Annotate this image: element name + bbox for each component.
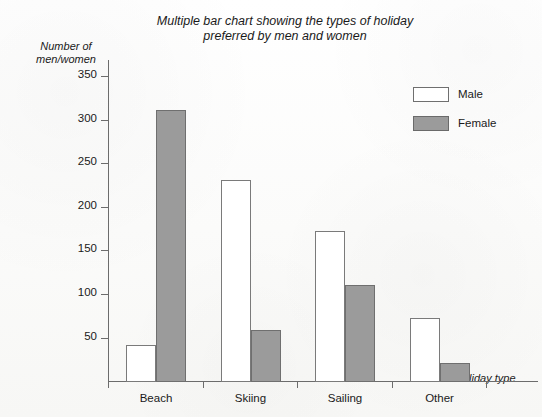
y-axis-tick: 100 (101, 294, 108, 295)
y-axis-tick: 50 (101, 338, 108, 339)
legend-item-female: Female (413, 115, 496, 131)
y-axis-tick: 350 (101, 76, 108, 77)
bar-other-male (410, 318, 440, 382)
chart-title-line-1: Multiple bar chart showing the types of … (120, 14, 450, 29)
bar-skiing-female (251, 330, 281, 382)
bar-beach-male (126, 345, 156, 382)
x-axis-category-label-beach: Beach (140, 392, 173, 404)
y-axis-tick: 300 (101, 120, 108, 121)
legend-swatch-female (413, 116, 449, 131)
chart-screenshot: Multiple bar chart showing the types of … (0, 0, 542, 417)
legend-swatch-male (413, 87, 449, 102)
y-axis-line (108, 60, 109, 382)
y-axis-tick-label: 150 (78, 242, 97, 254)
legend: MaleFemale (413, 86, 496, 144)
legend-label-male: Male (458, 88, 483, 100)
y-axis-title-line-1: Number of (30, 40, 102, 53)
y-axis-tick-label: 350 (78, 68, 97, 80)
bar-sailing-male (315, 231, 345, 382)
x-axis-category-label-skiing: Skiing (235, 392, 266, 404)
y-axis-tick-label: 50 (84, 330, 97, 342)
bar-other-female (440, 363, 470, 382)
x-axis-tick (486, 382, 487, 388)
y-axis-tick: 150 (101, 250, 108, 251)
x-axis-tick (297, 382, 298, 388)
legend-label-female: Female (458, 117, 496, 129)
x-axis-tick (203, 382, 204, 388)
y-axis-tick-label: 300 (78, 112, 97, 124)
y-axis-tick: 200 (101, 207, 108, 208)
chart-title-line-2: preferred by men and women (120, 29, 450, 44)
y-axis-tick: 250 (101, 163, 108, 164)
x-axis-category-label-sailing: Sailing (328, 392, 363, 404)
y-axis-title-line-2: men/women (30, 53, 102, 66)
bar-skiing-male (221, 180, 251, 382)
legend-item-male: Male (413, 86, 496, 102)
x-axis-tick (392, 382, 393, 388)
y-axis-tick-label: 250 (78, 155, 97, 167)
plot-area: 50100150200250300350 BeachSkiingSailingO… (108, 60, 453, 382)
y-axis-tick-label: 100 (78, 286, 97, 298)
y-axis-title: Number of men/women (30, 40, 102, 66)
y-axis-tick-label: 200 (78, 199, 97, 211)
x-axis-tick (108, 382, 109, 388)
bar-beach-female (156, 110, 186, 382)
x-axis-category-label-other: Other (425, 392, 454, 404)
chart-title: Multiple bar chart showing the types of … (120, 14, 450, 44)
bar-sailing-female (345, 285, 375, 382)
